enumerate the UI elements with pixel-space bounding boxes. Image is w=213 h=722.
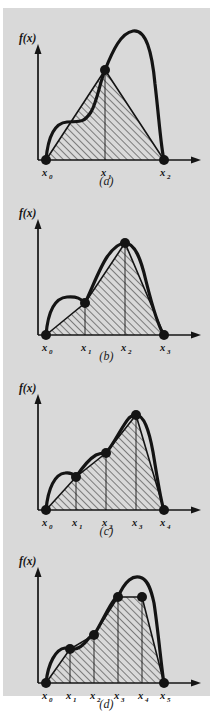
node-marker xyxy=(159,330,169,340)
panel-caption-d: (d) xyxy=(3,697,210,712)
node-marker xyxy=(65,644,75,654)
hatched-region-d xyxy=(46,597,164,683)
figure-plate: f(x) x 0 x 1 x 2 (a) xyxy=(3,8,210,696)
panel-a-plot: f(x) x 0 x 1 x 2 xyxy=(3,8,210,180)
node-marker xyxy=(137,592,147,602)
node-marker xyxy=(41,155,51,165)
node-marker xyxy=(113,592,123,602)
y-axis-arrowhead-b xyxy=(35,219,42,229)
panel-c-plot: f(x) x 0 x 1 x 2 x 3 x xyxy=(3,358,210,530)
node-marker xyxy=(80,298,90,308)
panel-c: f(x) x 0 x 1 x 2 x 3 x xyxy=(3,358,210,538)
node-marker xyxy=(159,155,169,165)
panel-a: f(x) x 0 x 1 x 2 (a) xyxy=(3,8,210,188)
y-axis-arrowhead-c xyxy=(35,394,42,404)
node-marker xyxy=(120,238,130,248)
node-marker xyxy=(101,448,111,458)
x-axis-arrowhead-b xyxy=(191,332,201,339)
figure-root: f(x) x 0 x 1 x 2 (a) xyxy=(0,0,213,722)
node-marker xyxy=(100,65,110,75)
panel-d: f(x) x 0 x 1 x 2 x 3 x xyxy=(3,531,210,711)
panel-b-plot: f(x) x 0 x 1 x 2 x 3 xyxy=(3,183,210,355)
node-marker xyxy=(41,505,51,515)
panel-b: f(x) x 0 x 1 x 2 x 3 (b) xyxy=(3,183,210,363)
y-axis-arrowhead-d xyxy=(35,567,42,577)
y-axis-arrowhead-a xyxy=(35,44,42,54)
y-axis-label-b: f(x) xyxy=(19,207,36,220)
panel-d-plot: f(x) x 0 x 1 x 2 x 3 x xyxy=(3,531,210,703)
node-marker xyxy=(159,505,169,515)
node-marker xyxy=(41,330,51,340)
y-axis-label-d: f(x) xyxy=(19,555,36,568)
node-marker xyxy=(89,630,99,640)
node-marker xyxy=(41,678,51,688)
x-axis-arrowhead-c xyxy=(191,507,201,514)
y-axis-label-c: f(x) xyxy=(19,382,36,395)
y-axis-label-a: f(x) xyxy=(19,32,36,45)
node-marker xyxy=(131,410,141,420)
x-axis-arrowhead-d xyxy=(191,680,201,687)
node-marker xyxy=(71,472,81,482)
x-axis-arrowhead-a xyxy=(191,157,201,164)
node-marker xyxy=(159,678,169,688)
